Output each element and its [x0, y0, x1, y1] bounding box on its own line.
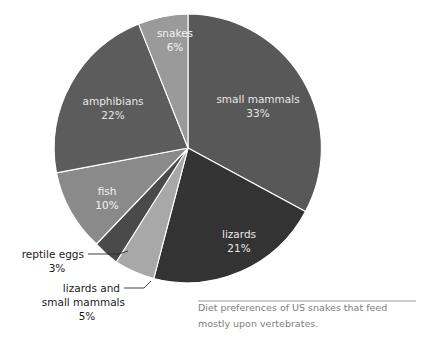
slice-label-snakes-value: 6% — [167, 41, 184, 53]
slice-label-fish-value: 10% — [95, 199, 118, 211]
slice-label-lizards-value: 21% — [227, 242, 250, 254]
slice-label-fish-name: fish — [98, 185, 117, 197]
caption-block: Diet preferences of US snakes that feed … — [198, 300, 416, 331]
slice-label-small-mammals-value: 33% — [246, 107, 269, 119]
slice-label-amphibians-name: amphibians — [82, 95, 143, 107]
slice-label-amphibians-value: 22% — [101, 109, 124, 121]
slice-label-lizards-name: lizards — [222, 228, 256, 240]
outside-label-reptile-eggs-name: reptile eggs — [22, 248, 84, 260]
slice-label-small-mammals-name: small mammals — [216, 93, 299, 105]
outside-label-lsm-line1: lizards and — [63, 282, 120, 294]
outside-label-reptile-eggs-value: 3% — [49, 262, 66, 274]
pie-outside-labels: reptile eggs 3% lizards and small mammal… — [22, 248, 125, 322]
caption-line-2: vertebrates. — [260, 318, 318, 329]
slice-label-snakes-name: snakes — [157, 27, 193, 39]
pie-chart-figure: small mammals 33% lizards 21% fish 10% a… — [0, 0, 427, 356]
outside-label-lsm-line2: small mammals — [42, 296, 125, 308]
leader-line-lizards-and-small-mammals — [124, 281, 151, 288]
caption-paragraph: Diet preferences of US snakes that feed … — [198, 300, 416, 331]
pie-slices — [54, 14, 321, 283]
outside-label-lsm-value: 5% — [79, 310, 96, 322]
